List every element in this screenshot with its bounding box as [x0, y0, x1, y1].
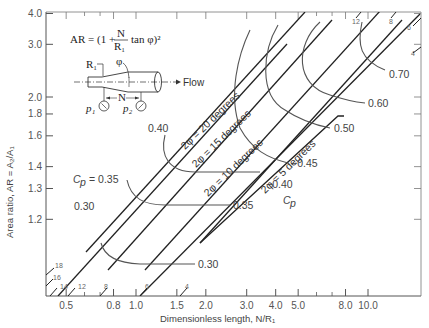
edge-angle-mark: 16 [53, 274, 61, 281]
y-tick-label: 2.0 [28, 92, 42, 103]
y-tick-label: 3.0 [28, 39, 42, 50]
x-tick-label: 1.5 [170, 300, 184, 311]
edge-angle-mark: 8 [389, 18, 393, 25]
p2-label: p₂ [122, 102, 133, 114]
x-tick-label: 8.0 [339, 300, 353, 311]
cp-contour-label: 0.30 [74, 200, 95, 212]
cp-contour-label: 0.70 [389, 68, 410, 80]
edge-angle-mark: 12 [78, 283, 86, 290]
angle-line [140, 14, 420, 296]
x-tick-label: 3.0 [240, 300, 254, 311]
x-tick-label: 2.0 [199, 300, 213, 311]
cp-contour-label: 0.35 [233, 199, 254, 211]
y-tick-label: 1.2 [28, 214, 42, 225]
x-tick-label: 1.0 [129, 300, 143, 311]
y-tick-label: 4.0 [28, 8, 42, 19]
pressure-recovery-contours [101, 22, 385, 264]
edge-angle-mark: 12 [352, 18, 360, 25]
x-tick-label: 0.8 [107, 300, 121, 311]
p1-label: p₁ [85, 102, 96, 114]
edge-angle-mark: 4 [411, 50, 415, 57]
angle-line [145, 0, 390, 270]
cp-contour-label: 0.40 [148, 122, 169, 134]
y-tick-label: 1.4 [28, 161, 42, 172]
diffuser-inset-diagram: AR = (1 + N R₁ tan φ)² R₁ φ Flow N p₁ p₂ [70, 27, 205, 114]
y-axis-ticks: 1.21.31.41.61.82.03.04.0 [28, 8, 53, 225]
cp-contour-label: = 0.35 [89, 173, 119, 185]
svg-text:p: p [79, 176, 86, 188]
formula-fraction-num: N [117, 27, 125, 39]
x-axis-title: Dimensionless length, N/R₁ [160, 313, 275, 324]
x-tick-label: 10.0 [358, 300, 378, 311]
x-tick-label: 5.0 [291, 300, 305, 311]
edge-angle-mark: 18 [55, 262, 63, 269]
y-tick-label: 1.8 [28, 108, 42, 119]
y-tick-label: 1.6 [28, 130, 42, 141]
cp-contour-label: 0.50 [334, 122, 355, 134]
r1-label: R₁ [86, 58, 97, 70]
formula-lhs: AR = (1 + [70, 33, 115, 46]
x-tick-label: 4.0 [269, 300, 283, 311]
x-tick-label: 0.5 [59, 300, 73, 311]
cp-contour [101, 243, 195, 264]
y-tick-label: 1.3 [28, 183, 42, 194]
angle-line [58, 44, 287, 296]
y-axis-title: Area ratio, AR = A₂/A₁ [4, 146, 15, 238]
flow-label: Flow [183, 77, 205, 88]
formula-fraction-den: R₁ [114, 40, 125, 52]
top-axis-ticks [66, 12, 368, 19]
cp-contour-label: 0.30 [198, 258, 219, 270]
svg-text:p: p [289, 197, 296, 209]
phi-label: φ [116, 55, 122, 67]
formula-rhs: tan φ)² [131, 33, 161, 46]
cp-contour-label: 0.60 [368, 97, 389, 109]
edge-angle-mark: 6 [407, 24, 411, 31]
diffuser-performance-chart: 1.21.31.41.61.82.03.04.0 0.50.81.01.52.0… [0, 0, 429, 328]
right-axis-ticks [414, 14, 421, 220]
x-axis-ticks: 0.50.81.01.52.03.04.05.08.010.0 [59, 289, 378, 311]
edge-angle-mark: 14 [60, 283, 68, 290]
